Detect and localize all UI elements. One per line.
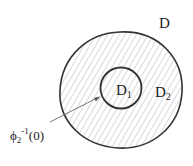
label-D: D	[159, 15, 170, 31]
label-phi-inverse: ϕ2-1(0)	[10, 126, 44, 145]
diagram-canvas: D D1 D2 ϕ2-1(0)	[0, 0, 193, 166]
